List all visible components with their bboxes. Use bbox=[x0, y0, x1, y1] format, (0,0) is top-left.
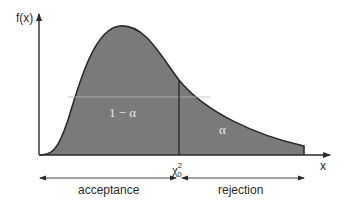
critical-value-sup: 2 bbox=[178, 161, 182, 170]
critical-value-sub: 0 bbox=[177, 170, 181, 179]
rejection-area-label: α bbox=[219, 123, 226, 136]
acceptance-area-label: 1 − α bbox=[109, 106, 136, 119]
acceptance-label: acceptance bbox=[78, 184, 139, 196]
rejection-label: rejection bbox=[218, 184, 263, 196]
density-area bbox=[40, 26, 304, 155]
x-axis-label: x bbox=[320, 160, 326, 172]
y-axis-label: f(x) bbox=[16, 12, 33, 24]
critical-value-label: χ20 bbox=[172, 163, 187, 176]
